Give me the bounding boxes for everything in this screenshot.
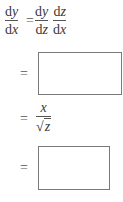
d-symbol: d — [35, 4, 42, 19]
dy-dx-fraction: dy dx — [5, 4, 18, 37]
square-root: √z — [36, 118, 51, 134]
variable-z: z — [42, 22, 47, 37]
d-symbol: d — [5, 22, 12, 37]
radical-icon: √ — [36, 119, 44, 134]
equals-sign: = — [20, 161, 28, 175]
d-symbol: d — [5, 4, 12, 19]
answer-box-2[interactable] — [38, 146, 110, 190]
variable-x: x — [40, 100, 46, 115]
fraction-bar — [35, 20, 48, 21]
fraction-bar — [36, 116, 51, 117]
variable-x: x — [12, 22, 18, 37]
fraction-bar — [5, 20, 18, 21]
equals-sign: = — [20, 112, 28, 126]
variable-z: z — [60, 4, 65, 19]
fraction-bar — [53, 20, 66, 21]
equals-sign: = — [20, 67, 28, 81]
x-over-sqrt-z-fraction: x √z — [36, 100, 51, 134]
variable-x: x — [60, 22, 66, 37]
d-symbol: d — [53, 22, 60, 37]
variable-z: z — [44, 118, 51, 134]
dz-dx-fraction: dz dx — [53, 4, 66, 37]
answer-box-1[interactable] — [38, 52, 122, 95]
variable-y: y — [42, 4, 48, 19]
dy-dz-fraction: dy dz — [35, 4, 48, 37]
variable-y: y — [12, 4, 18, 19]
equals-sign: = — [26, 14, 34, 28]
